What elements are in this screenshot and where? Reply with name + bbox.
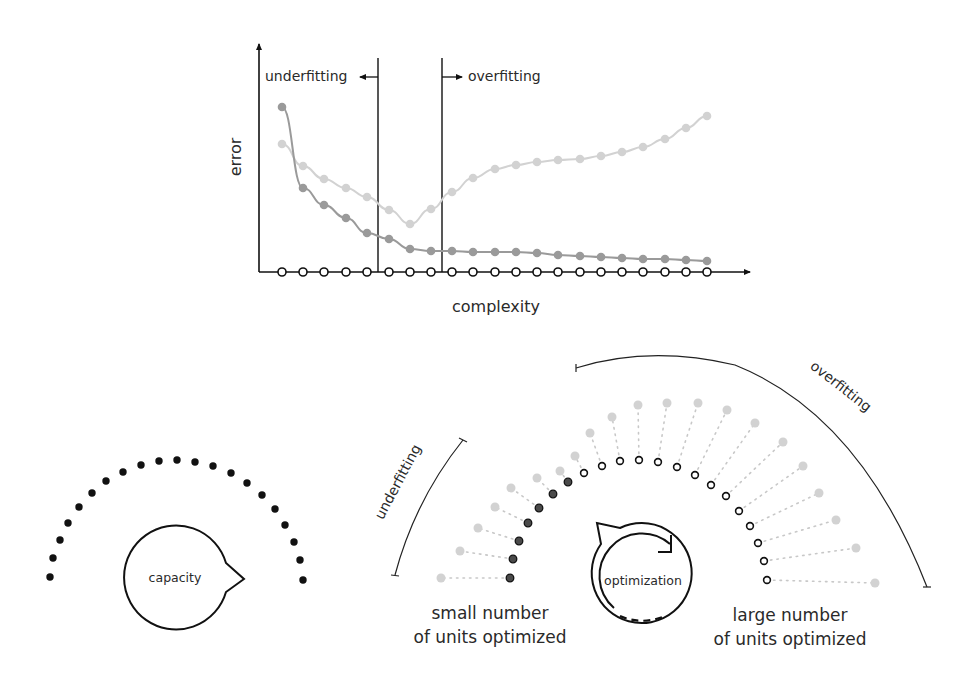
test-error-point [427,205,436,214]
unit-connector-line [767,580,875,583]
unit-connector-line [460,551,513,559]
underfitting-arc-tick [459,438,467,442]
unit-connector-line [726,442,783,496]
outer-unit-dot [723,406,732,415]
training-error-point [363,229,372,238]
unit-connector-line [478,528,519,541]
test-error-point [278,140,287,149]
capacity-label: capacity [149,570,202,585]
unit-connector-line [764,548,856,561]
capacity-unit-dot [299,576,306,583]
test-error-series [278,112,712,229]
capacity-unit-dot [173,456,180,463]
baseline-point [533,268,541,276]
test-error-point [469,174,478,183]
training-error-point [554,251,563,260]
capacity-unit-dot [46,573,53,580]
outer-unit-dot [751,419,760,428]
baseline-point [491,268,499,276]
outer-unit-dot [663,399,672,408]
test-error-point [533,158,542,167]
unit-connector-line [711,423,755,485]
capacity-unit-dot [258,491,265,498]
capacity-unit-dot [243,479,250,486]
baseline-point [618,268,626,276]
training-error-point [278,103,287,112]
training-error-series [278,103,712,266]
training-error-point [385,235,394,244]
training-error-point [618,254,627,263]
unit-connector-line [638,405,639,460]
unoptimized-unit-dot [674,464,681,471]
training-error-point [491,248,500,257]
unoptimized-unit-dot [764,577,771,584]
test-error-point [512,161,521,170]
outer-unit-dot [456,547,465,556]
unit-connector-line [677,403,698,467]
optimized-unit-dot [524,519,532,527]
outer-unit-dot [491,503,500,512]
capacity-unit-dot [137,461,144,468]
test-error-point [576,155,585,164]
capacity-unit-dot [75,503,82,510]
unoptimized-unit-dot [708,482,715,489]
training-error-point [427,247,436,256]
left-caption-line2: of units optimized [413,627,566,647]
baseline-point [320,268,328,276]
outer-unit-dot [556,467,565,476]
baseline-point [299,268,307,276]
outer-unit-dot [571,452,580,461]
baseline-point [278,268,286,276]
capacity-unit-dot [227,469,234,476]
optimized-unit-dot [564,478,572,486]
test-error-point [406,220,415,229]
unoptimized-unit-dot [736,508,743,515]
training-error-point [533,249,542,258]
unit-connector-line [695,410,727,475]
baseline-point [385,268,393,276]
unit-connector-line [658,403,667,462]
training-error-point [597,253,606,262]
unit-connector-line [758,520,836,543]
baseline-point [703,268,711,276]
test-error-point [682,124,691,133]
training-error-point [320,201,329,210]
baseline-point [597,268,605,276]
test-error-point [342,184,351,193]
baseline-point [639,268,647,276]
capacity-unit-dot [119,468,126,475]
underfitting-label: underfitting [265,68,347,84]
unoptimized-unit-dot [692,472,699,479]
training-error-point [406,245,415,254]
baseline-point [427,268,435,276]
capacity-unit-dot [191,458,198,465]
baseline-point [512,268,520,276]
optimization-diagram: underfitting overfitting optimization sm… [371,356,931,649]
y-axis-label: error [226,137,245,176]
training-error-point [512,248,521,257]
baseline-point [554,268,562,276]
test-error-point [661,135,670,144]
outer-unit-dot [437,574,446,583]
overfitting-label: overfitting [468,68,541,84]
unoptimized-unit-dot [755,540,762,547]
outer-unit-dot [815,489,824,498]
training-error-point [576,252,585,261]
outer-unit-dot [608,413,617,422]
unoptimized-unit-dot [723,493,730,500]
bottom-overfitting-label: overfitting [808,357,875,414]
baseline-point [661,268,669,276]
baseline-point [448,268,456,276]
test-error-point [639,143,648,152]
outer-unit-dot [694,399,703,408]
baseline-series [278,268,711,276]
baseline-point [576,268,584,276]
baseline-point [406,268,414,276]
training-error-point [661,255,670,264]
outer-unit-dot [799,462,808,471]
error-complexity-chart: underfitting overfitting error complexit… [226,44,750,316]
training-error-point [448,247,457,256]
unoptimized-unit-dot [581,470,588,477]
test-error-point [363,193,372,202]
capacity-unit-dot [209,462,216,469]
